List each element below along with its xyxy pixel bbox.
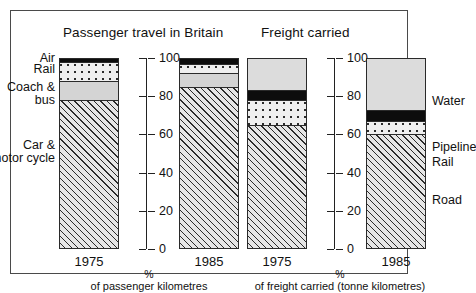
- passenger-tick-0: [139, 249, 146, 250]
- freight-caption-pct: %: [251, 269, 429, 280]
- freight-1975-segment-rail[interactable]: [247, 100, 307, 125]
- freight-x-label-1975: 1975: [247, 254, 307, 269]
- freight-ticklabel-0: 0: [347, 242, 354, 256]
- freight-tick-80-r: [336, 96, 343, 97]
- freight-caption-text: of freight carried (tonne kilometres): [251, 280, 429, 293]
- freight-1985-segment-pipeline[interactable]: [366, 110, 426, 121]
- freight-tick-20: [327, 211, 334, 212]
- passenger-ticklabel-80: 80: [159, 89, 173, 103]
- passenger-x-label-1985: 1985: [179, 254, 239, 269]
- passenger-tick-20-r: [148, 211, 155, 212]
- passenger-tick-40-r: [148, 173, 155, 174]
- passenger-y-axis: 100 80 60 40 20 0: [146, 58, 147, 249]
- passenger-label-car-line1: Car &: [0, 139, 55, 152]
- passenger-ticklabel-40: 40: [159, 166, 173, 180]
- chart-frame: Passenger travel in Britain Freight carr…: [10, 10, 408, 274]
- freight-bar-1975[interactable]: [247, 58, 307, 249]
- passenger-tick-0-r: [148, 249, 155, 250]
- freight-tick-0-r: [336, 249, 343, 250]
- passenger-ticklabel-20: 20: [159, 204, 173, 218]
- freight-legend-water: Water: [432, 95, 465, 108]
- freight-tick-100-r: [336, 58, 343, 59]
- freight-ticklabel-40: 40: [347, 166, 361, 180]
- passenger-caption-pct: %: [83, 269, 215, 280]
- passenger-x-label-1975: 1975: [59, 254, 119, 269]
- freight-tick-60-r: [336, 134, 343, 135]
- passenger-chart-title: Passenger travel in Britain: [63, 25, 223, 40]
- freight-1975-segment-water[interactable]: [247, 58, 307, 90]
- freight-1985-segment-water[interactable]: [366, 58, 426, 110]
- freight-chart-title: Freight carried: [261, 25, 350, 40]
- passenger-tick-80: [139, 96, 146, 97]
- passenger-1985-segment-car-motorcycle[interactable]: [179, 87, 239, 249]
- freight-tick-60: [327, 134, 334, 135]
- freight-tick-0: [327, 249, 334, 250]
- passenger-tick-100-r: [148, 58, 155, 59]
- passenger-tick-60-r: [148, 134, 155, 135]
- freight-legend-pipeline: Pipeline: [432, 141, 476, 154]
- freight-1975-segment-pipeline[interactable]: [247, 90, 307, 100]
- freight-legend-road: Road: [432, 194, 462, 207]
- passenger-bar-1975[interactable]: [59, 58, 119, 249]
- passenger-1985-segment-rail[interactable]: [179, 64, 239, 74]
- passenger-ticklabel-100: 100: [159, 51, 180, 65]
- freight-ticklabel-100: 100: [347, 51, 368, 65]
- passenger-tick-60: [139, 134, 146, 135]
- passenger-axis-caption: % of passenger kilometres: [83, 269, 215, 293]
- freight-bar-1985[interactable]: [366, 58, 426, 249]
- passenger-ticklabel-0: 0: [159, 242, 166, 256]
- freight-1985-segment-rail[interactable]: [366, 121, 426, 134]
- freight-ticklabel-80: 80: [347, 89, 361, 103]
- passenger-tick-20: [139, 211, 146, 212]
- freight-1985-segment-road[interactable]: [366, 134, 426, 249]
- passenger-tick-80-r: [148, 96, 155, 97]
- freight-tick-100: [327, 58, 334, 59]
- passenger-ticklabel-60: 60: [159, 127, 173, 141]
- freight-tick-40-r: [336, 173, 343, 174]
- passenger-label-coach-line2: bus: [0, 94, 55, 107]
- passenger-label-rail: Rail: [0, 63, 55, 76]
- freight-y-axis: 100 80 60 40 20 0: [334, 58, 335, 249]
- freight-x-label-1985: 1985: [366, 254, 426, 269]
- passenger-tick-40: [139, 173, 146, 174]
- passenger-label-car-line2: motor cycle: [0, 152, 55, 165]
- freight-ticklabel-60: 60: [347, 127, 361, 141]
- passenger-tick-100: [139, 58, 146, 59]
- passenger-1975-segment-coach-bus[interactable]: [59, 81, 119, 100]
- freight-tick-80: [327, 96, 334, 97]
- freight-1975-segment-road[interactable]: [247, 125, 307, 249]
- freight-tick-20-r: [336, 211, 343, 212]
- passenger-1975-segment-rail[interactable]: [59, 62, 119, 81]
- passenger-bar-1985[interactable]: [179, 58, 239, 249]
- freight-tick-40: [327, 173, 334, 174]
- freight-legend-rail: Rail: [432, 156, 454, 169]
- passenger-1985-segment-coach-bus[interactable]: [179, 73, 239, 86]
- passenger-label-coach-line1: Coach &: [0, 81, 55, 94]
- freight-axis-caption: % of freight carried (tonne kilometres): [251, 269, 429, 293]
- passenger-1975-segment-car-motorcycle[interactable]: [59, 100, 119, 249]
- passenger-caption-text: of passenger kilometres: [83, 280, 215, 293]
- freight-ticklabel-20: 20: [347, 204, 361, 218]
